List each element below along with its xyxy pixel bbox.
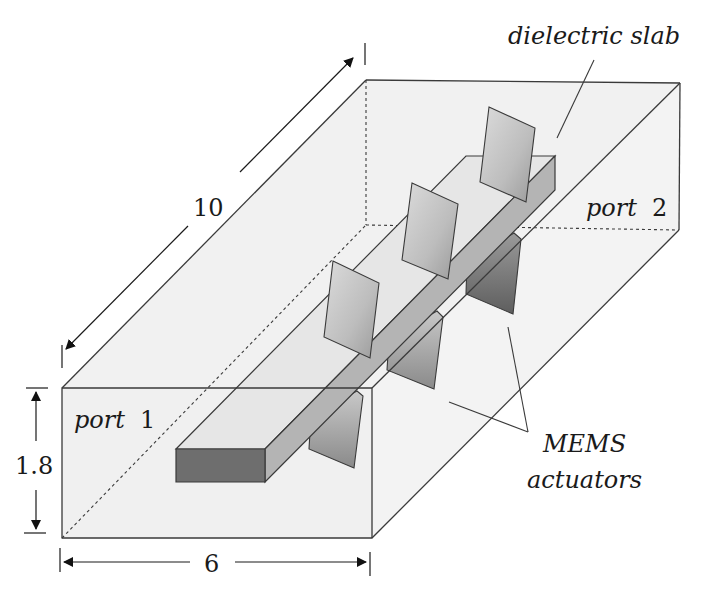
length-label: 10 bbox=[193, 194, 224, 222]
dimension-width: 6 bbox=[60, 548, 370, 578]
slab-front-face bbox=[176, 449, 265, 482]
port2-label: port 2 bbox=[586, 194, 667, 222]
svg-text:MEMS: MEMS bbox=[542, 430, 626, 458]
height-label: 1.8 bbox=[15, 452, 53, 480]
width-label: 6 bbox=[204, 550, 219, 578]
mems-actuators-label: MEMS actuators bbox=[527, 430, 642, 494]
dielectric-slab-label: dielectric slab bbox=[508, 22, 680, 50]
svg-text:port: port bbox=[586, 194, 637, 222]
port1-label: port 1 bbox=[74, 406, 155, 434]
svg-text:port: port bbox=[74, 406, 125, 434]
svg-text:2: 2 bbox=[652, 194, 667, 222]
dimension-height: 1.8 bbox=[15, 388, 53, 533]
svg-text:actuators: actuators bbox=[527, 466, 642, 494]
waveguide-diagram: 10 1.8 6 dielectric slab port 1 port 2 M… bbox=[0, 0, 701, 597]
svg-text:1: 1 bbox=[140, 406, 155, 434]
